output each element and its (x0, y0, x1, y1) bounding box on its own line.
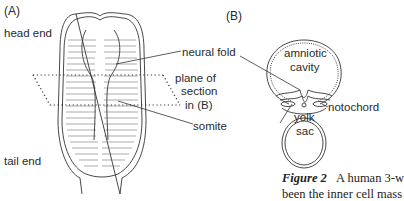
figure-number: Figure 2 (282, 171, 327, 185)
label-cavity: cavity (290, 62, 319, 74)
label-plane-3: in (B) (185, 100, 212, 112)
label-amniotic: amniotic (284, 48, 327, 60)
label-somite: somite (193, 121, 227, 133)
label-sac: sac (296, 126, 314, 138)
label-plane-2: section (181, 86, 217, 98)
label-tail-end: tail end (4, 156, 41, 168)
caption-line-2: been the inner cell mass (282, 188, 402, 201)
label-notochord: notochord (328, 102, 379, 114)
label-head-end: head end (4, 28, 52, 40)
figure-caption: Figure 2 A human 3-w (282, 172, 404, 185)
caption-text: A human 3-w (336, 171, 404, 185)
label-plane-1: plane of (175, 73, 216, 85)
label-yolk: yolk (294, 112, 314, 124)
panel-b-label: (B) (226, 10, 242, 22)
label-neural-fold: neural fold (182, 47, 236, 59)
panel-a-label: (A) (4, 5, 20, 17)
